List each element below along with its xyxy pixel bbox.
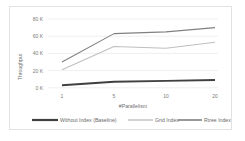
series-line-grid-index bbox=[62, 42, 215, 70]
x-tick-10: 10 bbox=[163, 93, 169, 99]
x-tick-1: 1 bbox=[61, 93, 64, 99]
legend-label-grid-index: Grid Index bbox=[155, 117, 179, 123]
legend-label-rtree-index: Rtree Index bbox=[204, 117, 231, 123]
x-tick-20: 20 bbox=[212, 93, 218, 99]
y-axis-title: Throughput bbox=[17, 53, 23, 80]
plot-area-wrapper: 80 K 60 K 40 K 20 K 0 K Throughput 1 5 1… bbox=[10, 7, 231, 129]
y-axis-tick-labels: 80 K 60 K 40 K 20 K 0 K bbox=[33, 16, 44, 91]
legend-label-without-index: Without Index (Baseline) bbox=[60, 117, 117, 123]
y-tick-60k: 60 K bbox=[33, 33, 44, 39]
y-tick-0k: 0 K bbox=[35, 85, 43, 91]
series-line-without-index bbox=[62, 80, 215, 85]
x-axis-title: #Parallelism bbox=[119, 103, 147, 109]
y-tick-40k: 40 K bbox=[33, 50, 44, 56]
line-chart: 80 K 60 K 40 K 20 K 0 K Throughput 1 5 1… bbox=[10, 7, 231, 129]
chart-container: 80 K 60 K 40 K 20 K 0 K Throughput 1 5 1… bbox=[9, 6, 232, 130]
legend: Without Index (Baseline) Grid Index Rtre… bbox=[32, 117, 231, 123]
y-tick-20k: 20 K bbox=[33, 68, 44, 74]
x-axis-tick-labels: 1 5 10 20 bbox=[61, 93, 218, 99]
y-tick-80k: 80 K bbox=[33, 16, 44, 22]
x-tick-5: 5 bbox=[113, 93, 116, 99]
